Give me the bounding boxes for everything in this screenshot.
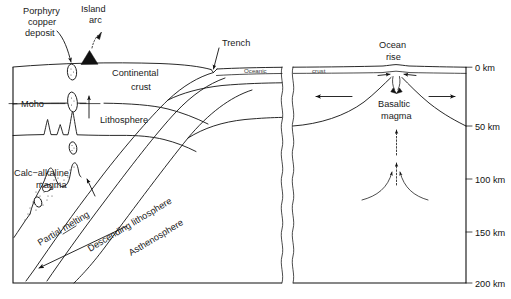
label-lithosphere: Lithosphere [100, 115, 148, 125]
ridge-magma-chamber [391, 77, 402, 94]
ridge-inflow-arrow-right [404, 74, 416, 75]
deep-convergent-arrows [362, 172, 428, 200]
oceanic-lithosphere-base [168, 83, 282, 138]
label-island-arc-line2: arc [89, 15, 102, 25]
label-partial-melting: Partial melting [36, 209, 91, 248]
label-island-arc-line1: Island [81, 4, 106, 14]
text-labels: Porphyry copper deposit Island arc Trenc… [14, 4, 413, 258]
depth-tick-0: 0 km [475, 63, 495, 73]
label-basaltic-magma-line1: Basaltic [378, 99, 411, 109]
label-oceanic: Oceanic [244, 67, 267, 74]
label-calc-alkaline-line1: Calc−alkaline [14, 168, 69, 178]
cross-section-figure: Porphyry copper deposit Island arc Trenc… [0, 0, 511, 299]
depth-tick-50: 50 km [475, 122, 500, 132]
label-continental-crust-line2: crust [131, 82, 151, 92]
label-descending-lithosphere: Descending lithosphere [86, 196, 173, 254]
depth-tick-100: 100 km [475, 175, 505, 185]
ridge-inflow-arrow-left [372, 74, 391, 76]
label-basaltic-magma-line2: magma [381, 111, 413, 121]
label-trench: Trench [222, 38, 250, 48]
depth-scale-ticks [466, 67, 472, 283]
label-continental-crust-line1: Continental [112, 68, 158, 78]
label-calc-alkaline-line2: magma [36, 180, 68, 190]
label-moho: Moho [21, 99, 44, 109]
label-ocean-rise-line2: rise [386, 52, 401, 62]
label-porphyry-line3: deposit [25, 28, 55, 38]
label-ocean-rise-line1: Ocean [379, 40, 406, 50]
label-porphyry-line2: copper [28, 17, 56, 27]
depth-tick-150: 150 km [475, 228, 505, 238]
label-crust: crust [312, 67, 326, 74]
depth-tick-200: 200 km [475, 279, 505, 289]
depth-scale-labels: 0 km 50 km 100 km 150 km 200 km [475, 63, 505, 289]
magma-conduits [67, 64, 95, 196]
label-porphyry-line1: Porphyry [23, 6, 60, 16]
break-line-left [281, 67, 282, 283]
break-line-right [292, 67, 293, 283]
island-arc-volcano [81, 32, 102, 65]
